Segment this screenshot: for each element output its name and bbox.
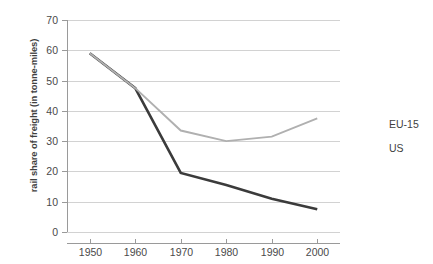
y-tick-label: 10	[46, 196, 58, 208]
chart-legend: EU-15 US	[358, 112, 432, 160]
x-tick-label: 2000	[306, 246, 330, 258]
legend-label-eu15: EU-15	[389, 118, 419, 130]
x-tick-label: 1960	[124, 246, 148, 258]
x-tick-label: 1990	[261, 246, 285, 258]
y-tick-label: 60	[46, 44, 58, 56]
x-tick-label: 1980	[215, 246, 239, 258]
legend-label-us: US	[389, 142, 404, 154]
axis-lines	[62, 20, 340, 244]
y-tick-label: 20	[46, 165, 58, 177]
y-tick-label: 40	[46, 105, 58, 117]
legend-item-us[interactable]: US	[358, 136, 432, 160]
series-line-us	[90, 53, 318, 141]
y-tick-label: 50	[46, 75, 58, 87]
x-tick-label: 1970	[170, 246, 194, 258]
data-series	[90, 53, 318, 209]
y-axis-ticks: 010203040506070	[46, 14, 58, 238]
y-tick-label: 30	[46, 135, 58, 147]
y-tick-label: 70	[46, 14, 58, 26]
x-tick-label: 1950	[79, 246, 103, 258]
y-tick-label: 0	[52, 226, 58, 238]
line-chart-figure: rail share of freight (in tonne-miles) 0…	[0, 0, 433, 264]
legend-item-eu15[interactable]: EU-15	[358, 112, 432, 136]
x-axis-ticks: 195019601970198019902000	[79, 246, 330, 258]
